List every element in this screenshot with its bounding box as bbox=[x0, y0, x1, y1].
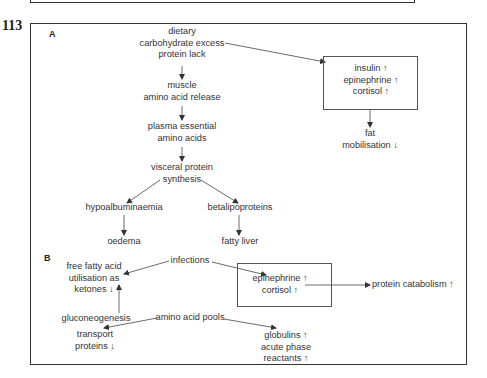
panel-label-a: A bbox=[49, 29, 56, 39]
node-globulins: globulins ↑ acute phase reactants ↑ bbox=[261, 330, 311, 365]
node-line: globulins ↑ bbox=[261, 330, 311, 342]
arrow-diet-hormones bbox=[225, 43, 325, 62]
node-line: epinephrine ↑ bbox=[343, 75, 398, 87]
node-hormones-b: epinephrine ↑ cortisol ↑ bbox=[252, 273, 307, 296]
node-gluconeogenesis: gluconeogenesis bbox=[62, 313, 131, 325]
node-line: carbohydrate excess bbox=[140, 38, 225, 50]
node-infections: infections bbox=[171, 255, 210, 267]
node-line: fat bbox=[342, 128, 398, 140]
arrow-infections-ffa bbox=[124, 261, 169, 274]
panel-label-b: B bbox=[44, 253, 51, 263]
node-line: epinephrine ↑ bbox=[252, 273, 307, 285]
node-visceral: visceral protein synthesis bbox=[151, 162, 213, 185]
node-line: reactants ↑ bbox=[261, 353, 311, 365]
node-protein-catabolism: protein catabolism ↑ bbox=[372, 279, 454, 291]
node-line: utilisation as bbox=[66, 273, 121, 285]
node-line: ketones ↓ bbox=[66, 284, 121, 296]
node-amino-acid-pools: amino acid pools bbox=[156, 312, 225, 324]
node-muscle: muscle amino acid release bbox=[143, 80, 220, 103]
node-betalipoproteins: betalipoproteins bbox=[208, 202, 273, 214]
node-line: cortisol ↑ bbox=[252, 285, 307, 297]
node-line: amino acids bbox=[148, 133, 216, 145]
node-line: synthesis bbox=[151, 174, 213, 186]
node-line: muscle bbox=[143, 80, 220, 92]
node-hormones-a: insulin ↑ epinephrine ↑ cortisol ↑ bbox=[343, 63, 398, 98]
node-line: acute phase bbox=[261, 342, 311, 354]
node-oedema: oedema bbox=[107, 236, 140, 248]
node-line: protein lack bbox=[140, 49, 225, 61]
node-dietary: dietary carbohydrate excess protein lack bbox=[140, 26, 225, 61]
node-plasma: plasma essential amino acids bbox=[148, 121, 216, 144]
node-fat-mobilisation: fat mobilisation ↓ bbox=[342, 128, 398, 151]
node-line: proteins ↓ bbox=[75, 341, 115, 353]
node-line: dietary bbox=[140, 26, 225, 38]
node-line: transport bbox=[75, 329, 115, 341]
node-fatty-liver: fatty liver bbox=[222, 236, 259, 248]
arrow-aapools-globulins bbox=[224, 319, 276, 328]
node-line: amino acid release bbox=[143, 92, 220, 104]
node-line: plasma essential bbox=[148, 121, 216, 133]
node-line: insulin ↑ bbox=[343, 63, 398, 75]
node-line: mobilisation ↓ bbox=[342, 140, 398, 152]
node-transport-proteins: transport proteins ↓ bbox=[75, 329, 115, 352]
node-line: visceral protein bbox=[151, 162, 213, 174]
node-line: free fatty acid bbox=[66, 261, 121, 273]
node-hypoalbuminaemia: hypoalbuminaemia bbox=[85, 202, 162, 214]
node-line: cortisol ↑ bbox=[343, 86, 398, 98]
node-free-fatty-acid: free fatty acid utilisation as ketones ↓ bbox=[66, 261, 121, 296]
